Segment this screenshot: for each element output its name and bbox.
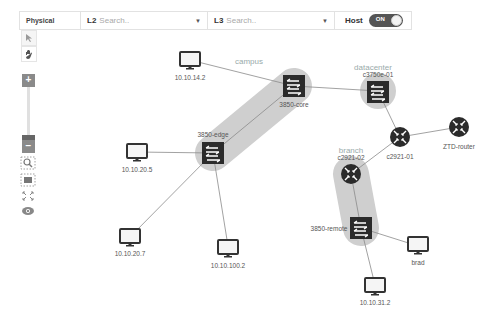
monitor-icon	[408, 237, 428, 255]
node-label: 3850-remote	[311, 225, 348, 232]
router-icon	[449, 117, 469, 137]
node-label: 3850-core	[279, 101, 309, 108]
router-icon	[341, 164, 361, 184]
group-label-campus: campus	[235, 57, 263, 66]
node-label: 10.10.31.2	[360, 299, 391, 306]
host-node[interactable]: brad	[408, 237, 428, 266]
node-label: 10.10.20.7	[115, 250, 146, 257]
router-node[interactable]: ZTD-router	[443, 117, 476, 150]
switch-icon	[367, 81, 389, 103]
node-label: c2921-01	[386, 153, 413, 160]
host-node[interactable]: 10.10.31.2	[360, 278, 391, 306]
monitor-icon	[120, 229, 140, 247]
node-label: 10.10.14.2	[175, 74, 206, 81]
host-node[interactable]: 10.10.20.7	[115, 229, 146, 257]
switch-icon	[283, 75, 305, 97]
node-label: ZTD-router	[443, 143, 476, 150]
monitor-icon	[218, 240, 238, 258]
node-label: brad	[411, 259, 424, 266]
monitor-icon	[180, 52, 200, 70]
node-label: 10.10.20.5	[122, 166, 153, 173]
host-node[interactable]: 10.10.100.2	[211, 240, 246, 269]
router-node[interactable]: c2921-01	[386, 127, 413, 160]
host-node[interactable]: 10.10.20.5	[122, 144, 153, 173]
node-label: 10.10.100.2	[211, 262, 246, 269]
switch-node[interactable]: 3850-core	[279, 75, 309, 108]
node-label: 3850-edge	[197, 131, 228, 139]
switch-icon	[202, 142, 224, 164]
node-label: c3750e-01	[363, 71, 394, 78]
monitor-icon	[127, 144, 147, 162]
node-label: c2921-02	[337, 154, 364, 161]
topology-canvas[interactable]: campus datacenter branch 10.10.14.2 3850…	[0, 0, 487, 321]
router-icon	[390, 127, 410, 147]
switch-icon	[350, 217, 372, 239]
host-node[interactable]: 10.10.14.2	[175, 52, 206, 81]
monitor-icon	[365, 278, 385, 296]
